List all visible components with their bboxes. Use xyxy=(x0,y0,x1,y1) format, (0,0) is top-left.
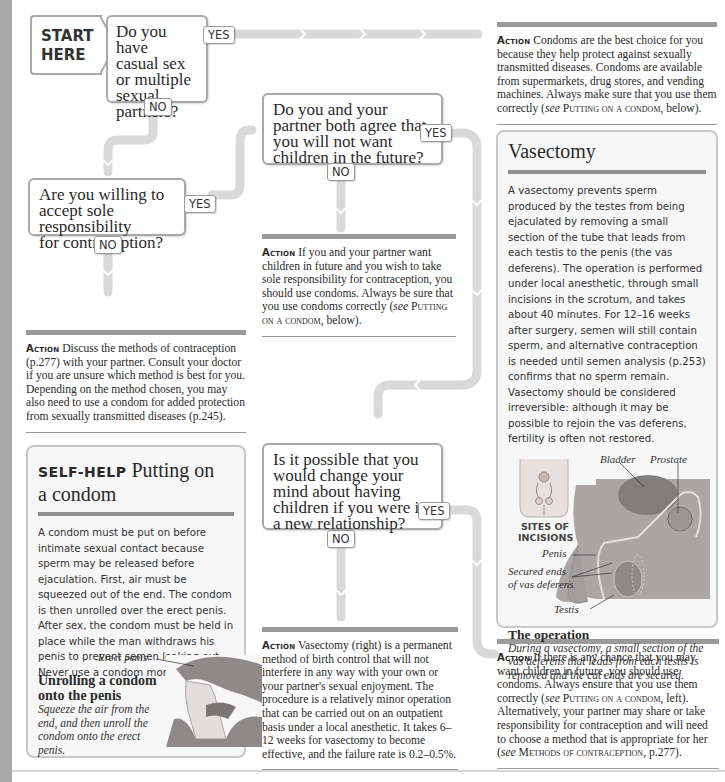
action-bar xyxy=(26,330,246,335)
action-text: , p.277). xyxy=(643,746,682,759)
action-lead: Action xyxy=(26,343,59,354)
action-text: , below). xyxy=(661,102,702,115)
action-end-rule xyxy=(497,124,717,125)
question-box-sole-responsibility: Are you willing to accept sole responsib… xyxy=(28,178,186,236)
action-vasectomy: Action Vasectomy (right) is a permanent … xyxy=(262,627,458,770)
see-text: see xyxy=(545,692,560,705)
question-line: Do you have xyxy=(116,24,198,56)
action-text: Vasectomy (right) is a permanent method … xyxy=(262,639,456,761)
label-secured-ends-line2: of vas deferens xyxy=(508,578,574,590)
selfhelp-caption: Unrolling a condom onto the penis Squeez… xyxy=(38,673,166,757)
start-here-label: START HERE xyxy=(30,15,102,75)
caption-title-line2: onto the penis xyxy=(38,688,166,703)
start-label-line2: HERE xyxy=(41,46,102,65)
action-lead: Action xyxy=(497,35,530,46)
action-end-rule xyxy=(26,432,246,433)
question-box-change-mind: Is it possible that you would change you… xyxy=(262,443,443,530)
action-lead: Action xyxy=(262,247,295,258)
action-discuss-methods: Action Discuss the methods of contracept… xyxy=(26,330,246,433)
label-prostate: Prostate xyxy=(650,453,687,465)
label-penis: Penis xyxy=(542,547,566,559)
question-box-agree-no-children: Do you and your partner both agree that … xyxy=(262,93,443,165)
vasectomy-illustration: Bladder Prostate SITES OF INCISIONS Peni… xyxy=(508,457,710,625)
label-testis: Testis xyxy=(554,603,579,615)
q2-no-label: NO xyxy=(327,163,355,181)
page-bottom-rule xyxy=(12,770,725,772)
q3-yes-label: YES xyxy=(184,195,216,213)
action-sole-responsibility: Action If you and your partner want chil… xyxy=(262,234,456,337)
connector-q3-yes xyxy=(212,130,252,195)
selfhelp-condom-panel: SELF-HELP Putting on a condom A condom m… xyxy=(26,445,246,758)
see-text: see xyxy=(545,102,560,115)
cross-reference: Putting on a condom xyxy=(563,692,661,705)
label-bladder: Bladder xyxy=(600,453,635,465)
label-line: SITES OF xyxy=(518,521,572,532)
action-end-rule xyxy=(262,336,456,337)
caption-title: Unrolling a condom xyxy=(38,673,166,688)
see-text: see xyxy=(501,746,516,759)
see-text: see xyxy=(393,300,408,313)
start-label-line1: START xyxy=(41,27,102,46)
action-bar xyxy=(497,22,717,27)
q1-no-label: NO xyxy=(144,98,172,116)
caption-text: During a vasectomy, a small section of t… xyxy=(508,642,706,683)
action-end-rule xyxy=(497,768,719,769)
cross-reference: Methods of contraception xyxy=(519,746,644,759)
page-edge-strip xyxy=(0,0,12,782)
q2-yes-label: YES xyxy=(420,124,452,142)
q4-no-label: NO xyxy=(327,530,355,548)
label-line: INCISIONS xyxy=(518,532,572,543)
panel-title-line2: a condom xyxy=(38,483,234,505)
q1-yes-label: YES xyxy=(203,26,235,44)
action-text: , below). xyxy=(321,314,362,327)
action-lead: Action xyxy=(262,640,295,651)
cross-reference: Putting on a condom xyxy=(563,102,661,115)
panel-kicker: SELF-HELP xyxy=(38,464,126,480)
caption-text: Squeeze the air from the end, and then u… xyxy=(38,703,166,757)
panel-body: A vasectomy prevents sperm produced by t… xyxy=(508,183,706,447)
label-pointer-line xyxy=(156,657,196,669)
label-erect-penis: Erect penis xyxy=(98,651,147,663)
action-bar xyxy=(262,627,458,632)
q3-no-label: NO xyxy=(94,236,122,254)
label-sites-of-incisions: SITES OF INCISIONS xyxy=(518,521,572,543)
question-box-casual-sex: Do you have casual sex or multiple sexua… xyxy=(106,15,208,103)
panel-title-line1: Putting on xyxy=(131,459,214,481)
panel-rule xyxy=(508,170,706,174)
question-line: accept sole responsibility xyxy=(39,203,175,235)
action-text: Discuss the methods of contraception (p.… xyxy=(26,342,245,423)
action-condoms-best: Action Condoms are the best choice for y… xyxy=(497,22,717,125)
q4-yes-label: YES xyxy=(418,502,450,520)
caption-title: The operation xyxy=(508,627,706,642)
vasectomy-panel: Vasectomy A vasectomy prevents sperm pro… xyxy=(496,130,718,628)
panel-title: SELF-HELP Putting on a condom xyxy=(38,459,234,505)
action-bar xyxy=(262,234,456,239)
label-secured-ends: Secured ends xyxy=(508,565,566,577)
panel-rule xyxy=(38,512,234,516)
panel-title: Vasectomy xyxy=(508,140,706,162)
